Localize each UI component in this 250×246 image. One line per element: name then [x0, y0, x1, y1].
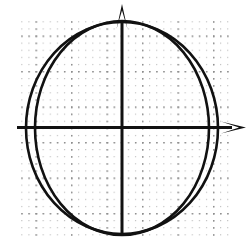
coordinate-plot [0, 0, 250, 246]
figure-canvas [0, 0, 250, 246]
